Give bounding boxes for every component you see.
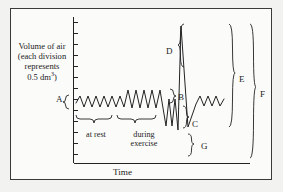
phase-label-during-exercise-line-2: exercise — [131, 139, 158, 148]
phase-label-during-exercise-line-1: during — [133, 130, 154, 139]
marker-label-d: D — [166, 47, 173, 57]
y-axis-label: Volume of air (each division represents … — [14, 41, 70, 82]
marker-label-e: E — [239, 75, 245, 85]
bracket-g — [188, 134, 194, 156]
bracket-at-rest — [76, 115, 112, 123]
figure-page: Volume of air (each division represents … — [0, 0, 283, 192]
y-axis-label-line-2: (each division — [18, 51, 66, 61]
y-axis-label-line-3: represents — [25, 61, 60, 71]
bracket-a — [63, 95, 69, 109]
phase-label-at-rest: at rest — [78, 131, 114, 140]
spirometer-trace-graphic — [0, 0, 283, 192]
marker-label-a: A — [56, 95, 63, 105]
bracket-during-exercise — [117, 115, 156, 123]
y-axis-label-line-1: Volume of air — [18, 41, 65, 51]
y-axis-label-line-4-value: 0.5 dm — [27, 72, 51, 82]
marker-label-f: F — [260, 90, 265, 100]
x-axis-label: Time — [113, 168, 132, 178]
bracket-e — [229, 24, 235, 127]
marker-label-g: G — [201, 142, 208, 152]
y-axis — [74, 17, 78, 163]
bracket-f — [250, 24, 256, 158]
trace-path — [76, 26, 224, 130]
marker-label-b: B — [178, 93, 184, 103]
marker-label-c: C — [192, 120, 198, 130]
y-axis-label-line-4-close: ) — [54, 72, 57, 82]
phase-label-during-exercise: during exercise — [124, 131, 164, 149]
